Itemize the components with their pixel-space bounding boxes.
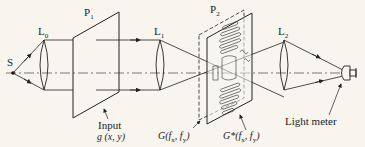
plane-p2-label: P2 <box>210 4 220 18</box>
lens-l2-icon <box>280 40 288 90</box>
lens-l0-icon <box>40 40 48 90</box>
light-meter-pointer <box>329 84 341 115</box>
light-meter-icon <box>342 66 357 80</box>
plane-p1-label: P1 <box>84 7 94 21</box>
filter-plane-p2 <box>207 13 252 124</box>
source-label: S <box>7 57 13 68</box>
lens-l1-icon <box>156 40 164 90</box>
lens-l2-label: L2 <box>278 26 288 40</box>
input-function-label: g (x, y) <box>97 132 125 142</box>
g-function-label: G(fx, fy) <box>158 131 189 144</box>
input-plane-p1 <box>73 12 119 118</box>
gstar-label-pointer <box>240 115 246 130</box>
input-label-pointer <box>104 109 108 119</box>
output-rays <box>284 40 343 90</box>
input-label: Input <box>98 120 121 131</box>
lens-l0-label: L0 <box>38 26 48 40</box>
source-rays <box>13 40 44 90</box>
g-label-pointer <box>193 121 200 128</box>
collimated-rays-back <box>96 40 160 90</box>
lens-l1-label: L1 <box>154 26 164 40</box>
gstar-function-label: G*(fx, fy) <box>223 131 259 144</box>
light-meter-label: Light meter <box>285 116 337 127</box>
optical-diagram: S L0 P1 L1 P2 L2 Input g (x, y) G(fx, fy… <box>0 0 365 147</box>
